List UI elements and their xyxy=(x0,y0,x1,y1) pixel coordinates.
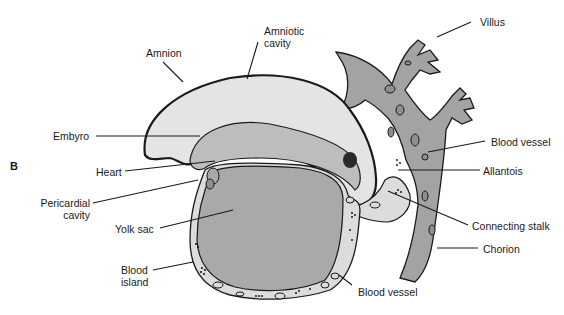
label-chorion: Chorion xyxy=(483,243,520,255)
embryo-diagram: B Amnion Amniotic cavity Villus Embyro B… xyxy=(0,0,564,315)
label-blood-vessel-bottom: Blood vessel xyxy=(358,286,418,298)
label-amniotic-cavity-1: Amniotic xyxy=(264,25,304,37)
label-connecting-stalk: Connecting stalk xyxy=(472,220,550,232)
pericardial-shape xyxy=(206,179,214,189)
label-allantois: Allantois xyxy=(483,165,523,177)
yolk-sac-cavity xyxy=(197,166,343,290)
label-blood-vessel-top: Blood vessel xyxy=(491,136,551,148)
label-amniotic-cavity-2: cavity xyxy=(264,37,291,49)
embryo-dark-cells xyxy=(343,152,357,168)
label-embryo: Embyro xyxy=(53,130,89,142)
label-yolk-sac: Yolk sac xyxy=(115,223,154,235)
label-blood-island-1: Blood xyxy=(121,264,148,276)
label-pericardial-1: Pericardial xyxy=(36,197,90,209)
label-heart: Heart xyxy=(96,166,122,178)
panel-label: B xyxy=(10,160,18,172)
label-villus: Villus xyxy=(480,16,505,28)
label-blood-island-2: island xyxy=(121,276,148,288)
label-pericardial-2: cavity xyxy=(36,209,90,221)
label-amnion: Amnion xyxy=(146,47,182,59)
